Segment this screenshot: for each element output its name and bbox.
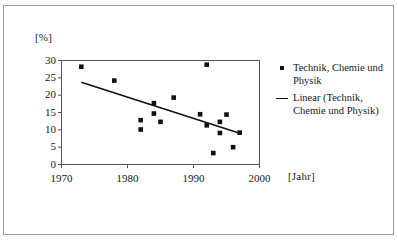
- legend-entry: Linear (Technik, Chemie und Physik): [276, 92, 396, 117]
- y-tick-label: 0: [34, 158, 56, 170]
- legend-entry: Technik, Chemie und Physik: [276, 62, 396, 87]
- linear-trend-line: [81, 82, 239, 133]
- y-tick-label: 5: [34, 140, 56, 152]
- data-point-marker: [138, 127, 143, 132]
- data-point-markers: [79, 62, 242, 155]
- plot-frame: [62, 61, 260, 165]
- data-point-marker: [231, 145, 236, 150]
- data-point-marker: [152, 111, 157, 116]
- x-tick-label: 1990: [174, 172, 214, 184]
- scatter-chart: [%] [Jahr] 051015202530 1970198019902000…: [0, 0, 398, 241]
- x-tick-label: 1980: [108, 172, 148, 184]
- data-point-marker: [152, 101, 157, 106]
- y-tick-label: 10: [34, 123, 56, 135]
- y-tick-label: 20: [34, 88, 56, 100]
- data-point-marker: [158, 120, 163, 125]
- square-icon: [280, 66, 284, 70]
- data-point-marker: [211, 151, 216, 156]
- figure-root: [%] [Jahr] 051015202530 1970198019902000…: [0, 0, 398, 241]
- y-tick-label: 30: [34, 54, 56, 66]
- legend-label: Linear (Technik, Chemie und Physik): [293, 92, 396, 117]
- legend-square-marker-icon: [276, 62, 290, 74]
- data-point-marker: [198, 112, 203, 117]
- data-point-marker: [204, 123, 209, 128]
- data-point-marker: [138, 118, 143, 123]
- y-tick-label: 25: [34, 71, 56, 83]
- line-icon: [276, 98, 288, 99]
- data-point-marker: [218, 120, 223, 125]
- chart-legend: Technik, Chemie und PhysikLinear (Techni…: [276, 62, 396, 122]
- data-point-marker: [79, 64, 84, 69]
- legend-line-marker-icon: [276, 92, 290, 104]
- axis-tick-marks: [58, 61, 260, 169]
- x-tick-label: 1970: [42, 172, 82, 184]
- data-point-marker: [204, 62, 209, 67]
- data-point-marker: [224, 112, 229, 117]
- data-point-marker: [237, 130, 242, 135]
- data-point-marker: [171, 95, 176, 100]
- x-tick-label: 2000: [240, 172, 280, 184]
- y-tick-label: 15: [34, 106, 56, 118]
- trend-line: [81, 82, 239, 133]
- data-point-marker: [218, 131, 223, 136]
- data-point-marker: [112, 78, 117, 83]
- legend-label: Technik, Chemie und Physik: [293, 62, 396, 87]
